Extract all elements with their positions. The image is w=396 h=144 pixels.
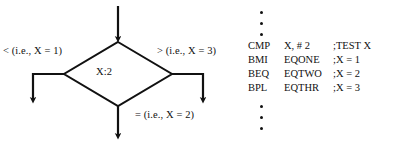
instruction-operand: EQONE xyxy=(284,53,320,67)
ellipsis-top xyxy=(255,11,267,36)
instruction-opcode: BPL xyxy=(248,81,267,95)
right-branch-path xyxy=(172,74,203,100)
instruction-row: BEQ EQTWO ;X = 2 xyxy=(248,67,396,81)
instruction-row: BPL EQTHR ;X = 3 xyxy=(248,81,396,95)
instruction-row: CMP X, # 2 ;TEST X xyxy=(248,39,396,53)
left-branch-path xyxy=(33,74,64,100)
instruction-comment: ;X = 2 xyxy=(333,67,360,81)
diagram-canvas: < (i.e., X = 1) > (i.e., X = 3) = (i.e.,… xyxy=(0,0,396,144)
branch-label-greater-than: > (i.e., X = 3) xyxy=(157,46,216,57)
instruction-opcode: BEQ xyxy=(248,67,269,81)
code-listing-region: CMP X, # 2 ;TEST X BMI EQONE ;X = 1 BEQ … xyxy=(248,0,396,144)
ellipsis-dot xyxy=(260,33,263,36)
branch-label-equal: = (i.e., X = 2) xyxy=(135,110,194,121)
instruction-opcode: BMI xyxy=(248,53,268,67)
ellipsis-dot xyxy=(260,116,263,119)
branch-label-less-than: < (i.e., X = 1) xyxy=(3,46,62,57)
ellipsis-dot xyxy=(260,11,263,14)
instruction-operand: EQTWO xyxy=(284,67,322,81)
flowchart-graphic xyxy=(0,0,232,144)
decision-diamond xyxy=(64,42,172,106)
ellipsis-dot xyxy=(260,22,263,25)
instruction-comment: ;X = 1 xyxy=(333,53,360,67)
instruction-list: CMP X, # 2 ;TEST X BMI EQONE ;X = 1 BEQ … xyxy=(248,39,396,95)
instruction-opcode: CMP xyxy=(248,39,270,53)
ellipsis-dot xyxy=(260,105,263,108)
instruction-operand: X, # 2 xyxy=(284,39,310,53)
instruction-row: BMI EQONE ;X = 1 xyxy=(248,53,396,67)
instruction-operand: EQTHR xyxy=(284,81,319,95)
flowchart-region: < (i.e., X = 1) > (i.e., X = 3) = (i.e.,… xyxy=(0,0,232,144)
instruction-comment: ;X = 3 xyxy=(333,81,360,95)
ellipsis-dot xyxy=(260,127,263,130)
ellipsis-bottom xyxy=(255,105,267,130)
decision-node-label: X:2 xyxy=(96,67,112,78)
instruction-comment: ;TEST X xyxy=(333,39,371,53)
